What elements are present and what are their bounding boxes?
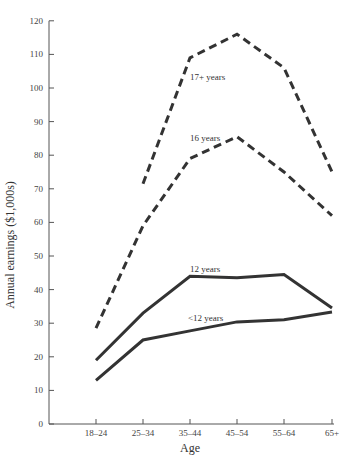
x-tick-label: 25–34	[132, 428, 155, 438]
x-axis-title: Age	[180, 441, 200, 455]
x-tick-label: 18–24	[85, 428, 108, 438]
series-label: 12 years	[190, 264, 221, 274]
y-tick-label: 120	[30, 16, 44, 26]
y-tick-label: 70	[34, 184, 44, 194]
y-tick-label: 90	[34, 117, 44, 127]
x-axis: 18–2425–3435–4445–5455–6465+	[49, 419, 339, 438]
x-tick-label: 45–54	[226, 428, 249, 438]
y-tick-label: 100	[30, 83, 44, 93]
series-label: 16 years	[190, 133, 221, 143]
line-chart: 0102030405060708090100110120 18–2425–343…	[0, 0, 349, 465]
y-tick-label: 20	[34, 352, 44, 362]
y-axis-title: Annual earnings ($1,000s)	[3, 181, 17, 309]
x-tick-label: 55–64	[273, 428, 296, 438]
series-label: 17+ years	[190, 72, 226, 82]
series-line-0	[143, 34, 332, 184]
series-label: <12 years	[188, 313, 224, 323]
y-tick-label: 0	[39, 419, 44, 429]
y-tick-label: 30	[34, 318, 44, 328]
x-tick-label: 35–44	[179, 428, 202, 438]
y-tick-label: 60	[34, 217, 44, 227]
series-line-1	[96, 137, 332, 329]
x-tick-label: 65+	[325, 428, 339, 438]
y-tick-label: 10	[34, 385, 44, 395]
y-axis: 0102030405060708090100110120	[30, 16, 55, 429]
y-tick-label: 110	[30, 49, 44, 59]
series-labels: 17+ years16 years12 years<12 years	[188, 72, 226, 323]
y-tick-label: 50	[34, 251, 44, 261]
series-lines	[96, 34, 332, 380]
y-tick-label: 80	[34, 150, 44, 160]
y-tick-label: 40	[34, 285, 44, 295]
